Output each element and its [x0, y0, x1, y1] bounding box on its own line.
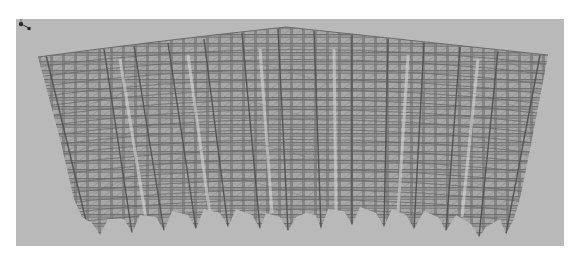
model-viewport[interactable] — [16, 19, 564, 246]
axis-triad-icon — [16, 19, 32, 31]
structural-model — [16, 19, 564, 246]
